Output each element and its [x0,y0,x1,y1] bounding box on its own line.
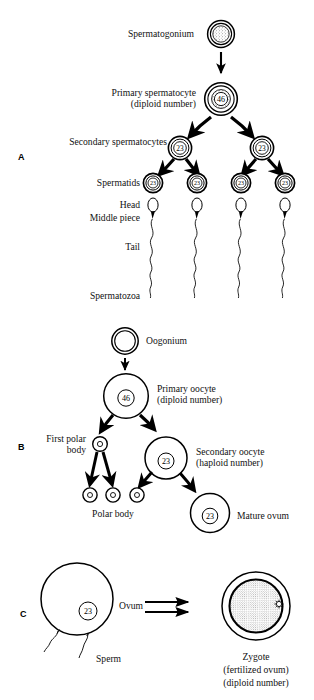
mature-ovum-cell: 23 [191,494,230,533]
spermatogonium-cell [208,21,235,48]
panel-a-label: A [18,152,25,162]
secondary-oocyte-chromosome-count: 23 [162,457,170,466]
arrow-secondary-right-to-spermatid-4 [268,159,282,174]
zygote-sublabel-2: (diploid number) [223,677,288,689]
head-label: Head [120,199,140,210]
primary-spermatocyte-sublabel: (diploid number) [131,98,196,110]
polar-body-label: Polar body [92,508,134,519]
sperm-entry-starburst [274,600,283,609]
figure-canvas: A Spermatogonium 46 Primary spermatocyte… [0,0,314,700]
panel-b-oogenesis: B Oogonium 46 Primary oocyte (diploid nu… [18,328,289,533]
spermatid-4-cell: 23 [275,173,294,192]
spermatids-label: Spermatids [97,177,140,188]
spermatogonium-label: Spermatogonium [128,28,195,39]
first-polar-body-label-line1: First polar [46,433,87,444]
primary-spermatocyte-label: Primary spermatocyte [112,87,196,98]
sperm-label: Sperm [96,653,122,664]
mature-ovum-label: Mature ovum [237,510,289,521]
arrow-secondary-oocyte-to-mature-ovum [180,473,194,490]
polar-body-1-cell [83,488,97,502]
primary-spermatocyte-cell: 46 [205,83,238,116]
primary-oocyte-chromosome-count: 46 [122,394,130,403]
panel-b-label: B [18,442,25,452]
primary-oocyte-cell: 46 [104,374,149,419]
zygote-sublabel-1: (fertilized ovum) [223,664,288,676]
secondary-oocyte-label: Secondary oocyte [196,446,264,457]
spermatid-1-count: 23 [150,180,156,186]
spermatozoa-label: Spermatozoa [90,290,141,301]
spermatid-2-count: 23 [194,180,200,186]
oogonium-cell [112,328,138,354]
polar-body-3-cell [130,488,144,502]
secondary-spermatocyte-left-cell: 23 [168,136,191,159]
sperm-1 [44,630,60,653]
ovum-label: Ovum [119,600,144,611]
spermatozoon-4 [280,198,290,298]
arrow-secondary-right-to-spermatid-3 [243,159,256,174]
primary-spermatocyte-chromosome-count: 46 [217,95,225,104]
arrow-first-polar-to-polar-body-2 [103,452,112,484]
arrow-primary-oocyte-to-first-polar-body [101,415,113,431]
ovum-cell: 23 [41,563,113,635]
zygote-cell [222,572,290,640]
arrow-secondary-oocyte-to-polar-body-3 [140,472,152,486]
primary-oocyte-sublabel: (diploid number) [157,394,222,406]
oogonium-label: Oogonium [146,335,188,346]
secondary-spermatocyte-left-count: 23 [176,144,184,153]
arrow-secondary-left-to-spermatid-1 [160,159,174,174]
zygote-label: Zygote [242,651,269,662]
fertilization-double-arrow [145,602,188,612]
first-polar-body-label-line2: body [67,444,86,455]
secondary-spermatocytes-label: Secondary spermatocytes [69,136,167,147]
secondary-spermatocyte-right-count: 23 [258,144,266,153]
spermatozoon-2 [192,198,202,298]
arrow-primary-to-secondary-left [190,117,211,136]
panel-c-label: C [20,609,27,619]
middle-piece-label: Middle piece [90,212,140,223]
gametogenesis-diagram: A Spermatogonium 46 Primary spermatocyte… [0,0,314,700]
panel-a-spermatogenesis: A Spermatogonium 46 Primary spermatocyte… [18,21,295,301]
first-polar-body-cell [93,437,108,452]
secondary-spermatocyte-right-cell: 23 [250,136,273,159]
panel-c-fertilization: C 23 Ovum Sperm [20,563,290,689]
polar-body-2-cell [106,488,120,502]
arrow-secondary-left-to-spermatid-2 [186,159,198,174]
spermatid-1-cell: 23 [143,173,162,192]
spermatozoon-1 [148,198,158,298]
spermatid-3-cell: 23 [231,173,250,192]
arrow-first-polar-to-polar-body-1 [90,452,97,484]
primary-oocyte-label: Primary oocyte [157,383,216,394]
tail-label: Tail [125,241,140,252]
mature-ovum-chromosome-count: 23 [206,512,214,521]
spermatozoon-3 [236,198,246,298]
spermatid-3-count: 23 [238,180,244,186]
spermatid-2-cell: 23 [187,173,206,192]
spermatid-4-count: 23 [282,180,288,186]
arrow-primary-to-secondary-right [231,117,252,136]
secondary-oocyte-sublabel: (haploid number) [196,457,263,469]
arrow-primary-oocyte-to-secondary-oocyte [140,415,154,429]
ovum-chromosome-count: 23 [84,607,92,616]
sperm-2 [79,633,89,658]
